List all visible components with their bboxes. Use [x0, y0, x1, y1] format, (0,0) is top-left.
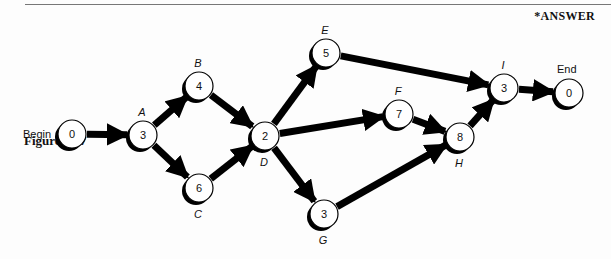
node-duration: 8: [457, 131, 463, 143]
node-D: 2D: [248, 122, 279, 168]
edge-D-to-G: [274, 148, 314, 201]
node-end: 0: [552, 79, 583, 110]
node-duration: 2: [262, 130, 268, 142]
edge-begin-to-A: [87, 134, 127, 135]
node-C: 6C: [182, 174, 213, 220]
node-duration: 5: [323, 47, 329, 59]
node-duration: 3: [140, 129, 146, 141]
edge-A-to-B: [154, 97, 187, 126]
node-label-A: A: [137, 106, 145, 118]
end-label: End: [557, 63, 577, 75]
node-begin: 0: [55, 120, 86, 151]
figure-page: *ANSWER Figure 3.17 03A4B6C2D5E7F3G8H3I0…: [0, 0, 611, 259]
node-E: 5E: [309, 24, 340, 70]
node-B: 4B: [182, 57, 213, 103]
node-duration: 4: [196, 80, 202, 92]
node-A: 3A: [126, 106, 157, 152]
node-duration: 7: [396, 108, 402, 120]
nodes-group: 03A4B6C2D5E7F3G8H3I0: [55, 24, 583, 246]
node-duration: 3: [321, 208, 327, 220]
node-G: 3G: [307, 200, 338, 246]
edge-B-to-D: [211, 95, 252, 126]
node-duration: 3: [501, 82, 507, 94]
node-H: 8H: [443, 123, 474, 169]
node-F: 7F: [382, 85, 413, 131]
edge-D-to-F: [280, 117, 383, 134]
edge-F-to-H: [413, 119, 445, 131]
network-diagram: 03A4B6C2D5E7F3G8H3I0 Begin End: [0, 0, 611, 259]
node-label-F: F: [395, 85, 403, 97]
node-label-B: B: [194, 57, 201, 69]
begin-label: Begin: [23, 128, 51, 140]
node-duration: 0: [566, 87, 572, 99]
edge-C-to-D: [211, 146, 253, 179]
edge-G-to-H: [337, 145, 446, 207]
node-label-E: E: [321, 24, 329, 36]
node-label-H: H: [455, 157, 463, 169]
node-label-C: C: [194, 208, 202, 220]
node-duration: 6: [196, 182, 202, 194]
edge-D-to-E: [274, 66, 317, 124]
edge-H-to-I: [470, 100, 493, 126]
edge-A-to-C: [154, 145, 187, 177]
edge-I-to-end: [519, 89, 553, 92]
node-duration: 0: [69, 128, 75, 140]
node-label-D: D: [260, 156, 268, 168]
node-label-G: G: [319, 234, 328, 246]
node-I: 3I: [487, 59, 518, 105]
edge-E-to-I: [341, 56, 489, 85]
node-label-I: I: [501, 59, 504, 71]
